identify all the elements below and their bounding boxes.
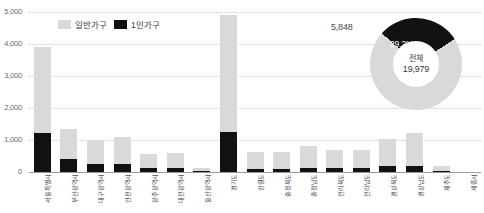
x-axis-label: 세종시 (471, 174, 478, 212)
y-tick-3000: 3,000 (0, 72, 22, 80)
x-axis-label: 경상북도 (391, 174, 398, 212)
legend-item-single: 1인가구 (114, 18, 160, 30)
chart-legend: 일반가구 1인가구 (58, 18, 160, 30)
y-tick-0: 0 (0, 168, 22, 176)
bar-segment-single (140, 168, 157, 172)
bar-segment-single (433, 171, 450, 172)
x-axis-label: 부산광역시 (72, 174, 79, 212)
x-axis-label: 충청북도 (285, 174, 292, 212)
chart-container: 5,000 4,000 3,000 2,000 1,000 0 일반가구 1인가… (0, 0, 484, 213)
x-axis-label: 인천광역시 (125, 174, 132, 212)
donut-center: 전체 19,979 (393, 41, 439, 87)
bar-segment-single (326, 168, 343, 172)
donut-center-title: 전체 (409, 54, 423, 63)
x-axis-line (29, 172, 481, 173)
x-axis-label: 대구광역시 (98, 174, 105, 212)
x-axis-label: 제주도 (444, 174, 451, 212)
x-axis-label: 광주광역시 (152, 174, 159, 212)
x-axis-label: 전라북도 (338, 174, 345, 212)
bar-segment-single (87, 164, 104, 172)
y-tick-4000: 4,000 (0, 40, 22, 48)
bar-segment-single (114, 164, 131, 172)
bar-segment-single (247, 169, 264, 172)
bar-segment-single (193, 171, 210, 172)
bar-segment-single (379, 166, 396, 172)
bar-segment-single (60, 159, 77, 172)
x-axis-label: 경상남도 (418, 174, 425, 212)
legend-label-single: 1인가구 (131, 18, 160, 30)
bar-segment-single (300, 168, 317, 172)
x-axis-label: 강원도 (258, 174, 265, 212)
x-axis-label: 대전광역시 (178, 174, 185, 212)
donut-callout-value: 5,848 (331, 22, 353, 32)
bar-segment-single (273, 169, 290, 172)
bar-segment-single (34, 133, 51, 172)
bar-segment-single (167, 168, 184, 172)
legend-item-total: 일반가구 (58, 18, 107, 30)
square-swatch-icon (114, 20, 127, 29)
x-axis-label: 경기도 (231, 174, 238, 212)
y-tick-1000: 1,000 (0, 136, 22, 144)
x-axis-label: 서울특별시 (45, 174, 52, 212)
bar-segment-single (406, 166, 423, 172)
y-tick-2000: 2,000 (0, 104, 22, 112)
x-axis-labels: 서울특별시부산광역시대구광역시인천광역시광주광역시대전광역시울산광역시경기도강원… (29, 174, 481, 213)
legend-label-total: 일반가구 (75, 18, 107, 30)
donut-chart: 29.2% 전체 19,979 (370, 18, 462, 110)
x-axis-label: 울산광역시 (205, 174, 212, 212)
x-axis-label: 충청남도 (311, 174, 318, 212)
bar-segment-single (220, 132, 237, 172)
x-axis-label: 전라남도 (364, 174, 371, 212)
bar-segment-single (353, 168, 370, 172)
square-swatch-icon (58, 20, 71, 29)
y-tick-5000: 5,000 (0, 8, 22, 16)
donut-center-value: 19,979 (403, 64, 429, 74)
